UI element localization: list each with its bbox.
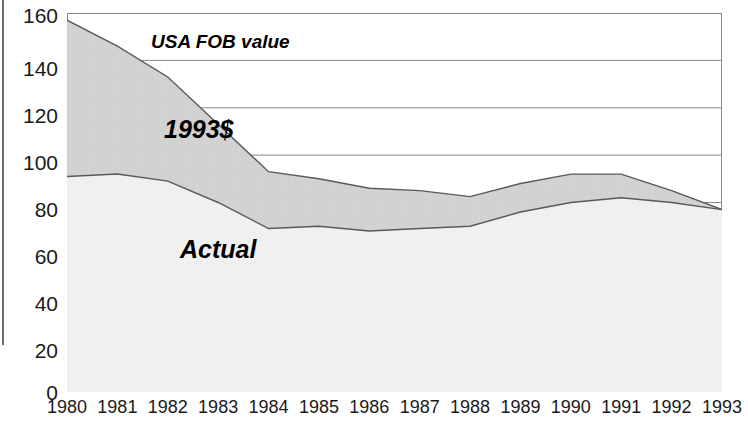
y-tick-80: 80 xyxy=(6,199,58,220)
y-tick-20: 20 xyxy=(6,340,58,361)
annotation-series-1993-dollars: 1993$ xyxy=(164,115,234,144)
x-axis: 1980198119821983198419851986198719881989… xyxy=(67,396,722,422)
plot-canvas xyxy=(67,13,722,392)
y-axis: 160 140 120 100 80 60 40 20 0 xyxy=(0,0,58,423)
y-tick-60: 60 xyxy=(6,246,58,267)
y-tick-160: 160 xyxy=(6,5,58,26)
y-tick-140: 140 xyxy=(6,58,58,79)
y-tick-120: 120 xyxy=(6,105,58,126)
area-chart: 160 140 120 100 80 60 40 20 0 xyxy=(0,0,748,423)
y-tick-100: 100 xyxy=(6,152,58,173)
annotation-series-actual: Actual xyxy=(180,235,256,264)
annotation-usa-fob-value: USA FOB value xyxy=(151,31,290,53)
plot-area: USA FOB value 1993$ Actual xyxy=(67,13,722,392)
x-tick-1993: 1993 xyxy=(692,396,748,418)
y-tick-40: 40 xyxy=(6,293,58,314)
